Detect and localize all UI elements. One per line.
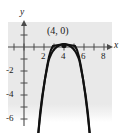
x-tick-label-6: 6 — [81, 52, 86, 61]
y-tick-label-minus4: -4 — [6, 90, 14, 99]
plot-canvas — [0, 0, 124, 133]
y-tick-label-minus2: -2 — [6, 66, 14, 75]
parabola-figure: y x (4, 0) 2 4 6 8 -2 -4 -6 — [0, 0, 124, 133]
y-axis-label: y — [20, 8, 24, 18]
x-tick-label-2: 2 — [41, 52, 46, 61]
x-tick-label-4: 4 — [61, 52, 66, 61]
x-tick-label-8: 8 — [101, 52, 106, 61]
x-axis-label: x — [114, 41, 118, 51]
vertex-annotation: (4, 0) — [47, 26, 69, 36]
vertex-marker — [61, 43, 66, 48]
y-tick-label-minus6: -6 — [6, 114, 14, 123]
y-axis — [21, 20, 28, 126]
